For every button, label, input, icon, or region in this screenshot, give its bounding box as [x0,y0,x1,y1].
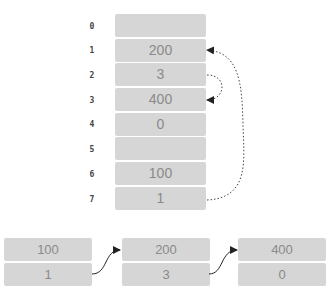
pointer-arrow-2-to-3 [207,75,222,100]
next-arrow-2-to-3 [209,250,237,274]
next-arrow-1-to-2 [92,250,120,274]
arrows-layer [0,0,336,300]
pointer-arrow-7-to-1 [207,50,244,200]
